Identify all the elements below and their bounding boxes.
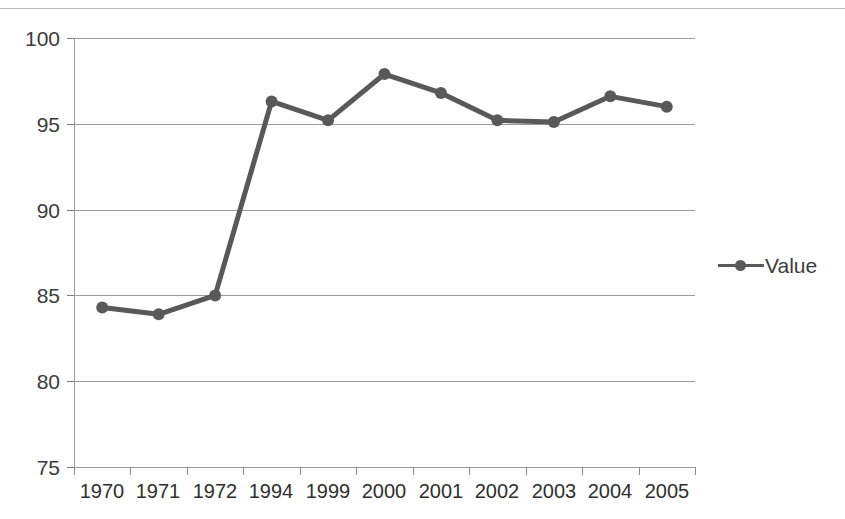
legend-line-marker-icon — [718, 258, 764, 272]
x-tick-2 — [187, 467, 188, 475]
y-axis-label-95: 95 — [0, 114, 60, 135]
chart-page: 100 95 90 85 80 75 1970 1971 1972 1994 1… — [0, 0, 845, 519]
y-axis-label-75: 75 — [0, 457, 60, 478]
x-tick-4 — [300, 467, 301, 475]
line-chart: 100 95 90 85 80 75 1970 1971 1972 1994 1… — [0, 0, 845, 519]
y-axis-label-85: 85 — [0, 285, 60, 306]
y-axis-label-80: 80 — [0, 371, 60, 392]
x-tick-6 — [413, 467, 414, 475]
x-tick-10 — [639, 467, 640, 475]
x-tick-11 — [695, 467, 696, 475]
y-axis-label-100: 100 — [0, 28, 60, 49]
y-axis-label-90: 90 — [0, 200, 60, 221]
x-tick-8 — [526, 467, 527, 475]
x-tick-1 — [130, 467, 131, 475]
x-tick-5 — [356, 467, 357, 475]
x-tick-3 — [243, 467, 244, 475]
x-tick-0 — [74, 467, 75, 475]
x-tick-7 — [469, 467, 470, 475]
chart-legend: Value — [718, 252, 817, 278]
x-axis-label-2005: 2005 — [632, 480, 702, 502]
x-tick-9 — [582, 467, 583, 475]
legend-label-value: Value — [765, 255, 817, 276]
